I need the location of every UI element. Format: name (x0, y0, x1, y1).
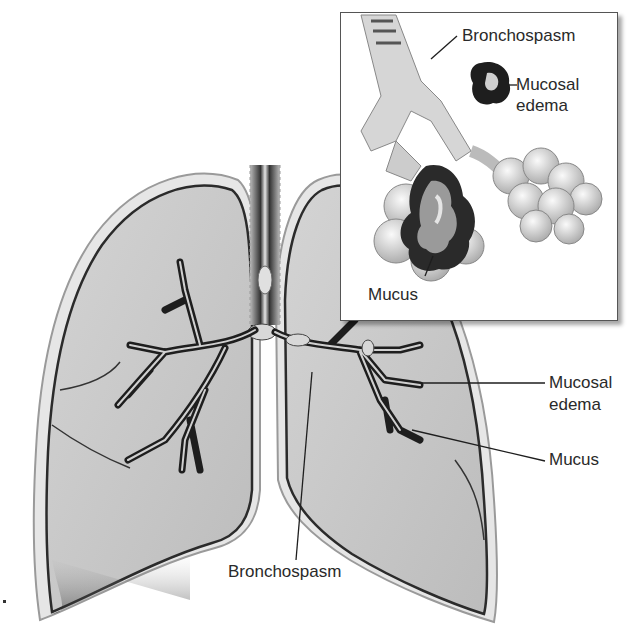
trachea (248, 165, 280, 340)
inset-panel (340, 12, 618, 321)
inset-alveoli-healthy (493, 148, 602, 244)
lungs-diagram: Bronchospasm Mucosal edema Mucus Mucosal… (0, 0, 635, 637)
inset-label-mucus: Mucus (368, 285, 418, 305)
inset-label-mucosal-edema-2: edema (516, 96, 568, 116)
label-bronchospasm: Bronchospasm (228, 562, 341, 582)
label-mucus: Mucus (549, 450, 599, 470)
inset-edema-crosssection (471, 62, 511, 104)
inset-alveoli-mucus (374, 165, 484, 281)
inset-label-mucosal-edema-1: Mucosal (516, 75, 579, 95)
label-mucosal-edema-1: Mucosal (549, 373, 612, 393)
left-lung (34, 174, 260, 620)
label-mucosal-edema-2: edema (549, 395, 601, 415)
inset-label-bronchospasm: Bronchospasm (462, 26, 575, 46)
stray-mark (3, 600, 6, 603)
inset-illustration (341, 13, 617, 320)
